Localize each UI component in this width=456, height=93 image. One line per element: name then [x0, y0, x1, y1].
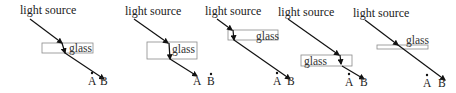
incident-ray-arrow [365, 20, 398, 45]
glass-label: glass [172, 43, 196, 56]
point-b-label: B [100, 75, 108, 87]
point-a-label: A [345, 76, 354, 88]
point-b-label: B [438, 77, 446, 89]
point-a-label: A [423, 77, 432, 89]
point-a-label: A [193, 75, 202, 87]
panel-1: light source glass A B [20, 3, 108, 87]
point-a-dot [348, 73, 350, 75]
glass-label: glass [256, 30, 280, 43]
emergent-ray-arrow [234, 40, 290, 79]
incident-ray-arrow [30, 19, 62, 43]
glass-label: glass [406, 34, 430, 47]
point-b-label: B [207, 75, 215, 87]
panel-2: light source glass A B [125, 4, 215, 87]
emergent-ray-arrow [170, 59, 197, 76]
emergent-ray-arrow [65, 53, 104, 79]
light-source-label: light source [20, 3, 76, 17]
incident-ray-arrow [288, 19, 339, 55]
light-source-label: light source [353, 6, 409, 20]
emergent-ray-arrow [398, 45, 445, 80]
point-a-label: A [88, 75, 97, 87]
point-a-label: A [273, 75, 282, 87]
point-a-dot [426, 74, 428, 76]
point-b-label: B [360, 76, 368, 88]
incident-ray-arrow [134, 19, 168, 43]
light-source-label: light source [125, 4, 181, 18]
point-a-dot [276, 72, 278, 74]
incident-ray-arrow [217, 19, 232, 30]
glass-label: glass [69, 42, 93, 55]
refraction-diagram: light source glass A B light source glas… [0, 0, 456, 93]
glass-label: glass [304, 55, 328, 68]
point-b-label: B [287, 75, 295, 87]
point-a-dot [91, 72, 93, 74]
light-source-label: light source [205, 4, 261, 18]
light-source-label: light source [278, 5, 334, 19]
